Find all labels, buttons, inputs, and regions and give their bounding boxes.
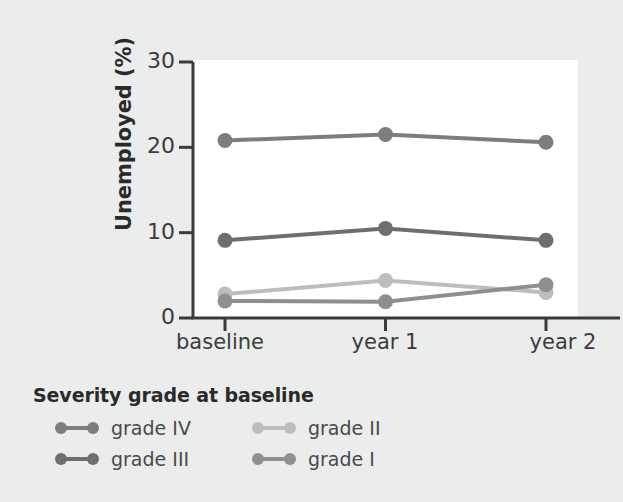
legend-title: Severity grade at baseline [33,384,593,406]
chart-figure: Unemployed (%) 30 20 10 0 baseline year … [0,0,623,502]
chart-legend: Severity grade at baseline grade IV grad… [33,384,593,415]
legend-label-grade-i: grade I [308,448,375,470]
legend-item-grade-i[interactable]: grade I [252,446,375,472]
legend-marker-icon [55,451,99,467]
data-point [539,233,554,248]
series-grade-iv [218,127,554,150]
legend-marker-icon [252,451,296,467]
legend-label-grade-iv: grade IV [111,417,191,439]
legend-item-grade-iv[interactable]: grade IV [55,415,191,441]
legend-item-grade-ii[interactable]: grade II [252,415,381,441]
data-point [378,273,393,288]
legend-marker-icon [252,420,296,436]
legend-label-grade-ii: grade II [308,417,381,439]
data-series-layer [218,127,554,309]
legend-marker-icon [55,420,99,436]
data-point [218,233,233,248]
data-point [378,127,393,142]
data-point [378,221,393,236]
axis-lines [192,62,621,318]
data-point [218,133,233,148]
data-point [539,277,554,292]
series-grade-iii [218,221,554,248]
data-point [378,294,393,309]
data-point [539,135,554,150]
data-point [218,293,233,308]
legend-item-grade-iii[interactable]: grade III [55,446,189,472]
legend-label-grade-iii: grade III [111,448,189,470]
